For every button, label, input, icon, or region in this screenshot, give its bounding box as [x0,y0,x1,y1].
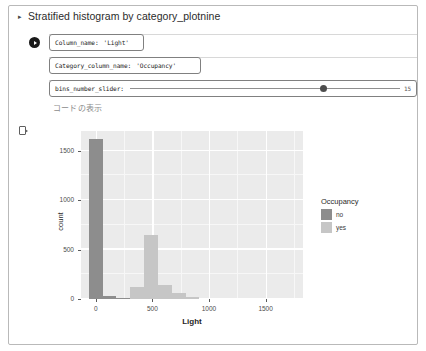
bins-slider-value: 15 [404,85,413,92]
x-tick-mark [266,299,267,302]
legend-item: yes [321,222,401,233]
legend-swatch-icon [321,209,332,220]
column-name-label: Column_name: [55,39,99,46]
cell-output: count 050010001500 050010001500 Light Oc… [9,123,417,345]
x-tick-mark [209,299,210,302]
chevron-right-icon[interactable]: ▸ [16,12,23,21]
y-tick-mark [78,151,81,152]
bins-number-slider-field[interactable]: bins_number_slider: 15 [49,80,417,97]
screenshot-root: ▸ Stratified histogram by category_plotn… [0,0,426,351]
y-axis-title: count [56,212,65,230]
gridline-horizontal [81,150,303,151]
show-code-link[interactable]: コードの表示 [53,102,102,113]
legend-label: yes [336,224,346,231]
plot-panel [81,131,303,299]
legend-title: Occupancy [321,197,401,206]
histogram-bar [116,298,130,299]
widget-row-category-column-name: Category_column_name: 'Occupancy' [49,57,417,74]
widget-row-column-name: Column_name: 'Light' [49,34,417,51]
gridline-horizontal-minor [81,273,303,274]
histogram-bar [158,285,172,299]
histogram-bar [89,139,103,299]
gridline-horizontal-minor [81,224,303,225]
y-tick-label: 1500 [60,147,74,154]
x-tick-label: 0 [94,305,98,312]
histogram-plot: count 050010001500 050010001500 Light Oc… [29,129,409,339]
category-column-name-label: Category_column_name: [55,62,131,69]
widget-row-bins-slider: bins_number_slider: 15 [49,80,417,97]
y-tick-mark [78,250,81,251]
x-tick-label: 500 [147,305,158,312]
gridline-vertical-minor [181,131,182,299]
page-title: Stratified histogram by category_plotnin… [28,10,220,22]
gridline-vertical [266,131,267,299]
histogram-bar [103,296,117,299]
y-tick-label: 500 [63,246,74,253]
gridline-vertical-minor [294,131,295,299]
legend-swatch-icon [321,222,332,233]
category-column-name-field[interactable]: Category_column_name: 'Occupancy' [49,57,201,74]
column-name-value: 'Light' [104,39,129,46]
bins-number-slider[interactable] [130,82,400,95]
run-cell-icon[interactable] [29,37,40,48]
y-tick-mark [78,200,81,201]
output-prompt-arrow [25,129,28,133]
gridline-vertical-minor [237,131,238,299]
x-axis-title: Light [81,317,303,326]
histogram-bar [186,297,200,299]
histogram-bar [130,287,144,299]
legend-label: no [336,211,343,218]
column-name-field[interactable]: Column_name: 'Light' [49,34,144,51]
y-tick-mark [78,299,81,300]
gridline-vertical [209,131,210,299]
gridline-horizontal [81,248,303,249]
x-tick-label: 1500 [258,305,272,312]
output-prompt-icon [19,126,29,136]
widget-panel: Column_name: 'Light' Category_column_nam… [9,26,417,123]
cell-header[interactable]: ▸ Stratified histogram by category_plotn… [9,6,417,26]
slider-handle[interactable] [320,85,327,92]
legend: Occupancy noyes [321,197,401,235]
legend-items: noyes [321,209,401,233]
histogram-bar [144,235,158,299]
histogram-bar [172,293,186,299]
gridline-horizontal-minor [81,174,303,175]
slider-track[interactable] [130,88,400,89]
y-tick-label: 0 [70,295,74,302]
notebook-cell-frame: ▸ Stratified histogram by category_plotn… [8,5,418,345]
bins-slider-label: bins_number_slider: [55,85,124,92]
legend-item: no [321,209,401,220]
y-tick-label: 1000 [60,196,74,203]
x-tick-mark [152,299,153,302]
gridline-vertical-minor [124,131,125,299]
gridline-horizontal [81,199,303,200]
x-tick-mark [96,299,97,302]
x-tick-label: 1000 [202,305,216,312]
category-column-name-value: 'Occupancy' [136,62,176,69]
